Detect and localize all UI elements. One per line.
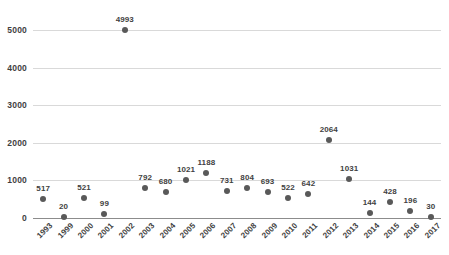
x-axis-tick-label: 2006 [199,221,218,240]
x-axis-tick-label: 2001 [97,221,116,240]
y-axis-tick-label: 2000 [7,138,27,148]
data-point-label: 4993 [116,15,134,24]
x-axis-tick-label: 2007 [219,221,238,240]
plot-area: 5172052199499379268010211188731804693522… [33,30,441,218]
x-axis-tick-label: 2017 [423,221,442,240]
x-axis-tick-label: 2000 [76,221,95,240]
gridline [33,180,441,181]
gridline [33,68,441,69]
data-point[interactable] [346,176,352,182]
x-axis-tick-label: 2011 [301,221,320,240]
y-axis-tick-label: 3000 [7,100,27,110]
x-axis-tick-label: 2014 [362,221,381,240]
x-axis-tick-label: 2012 [321,221,340,240]
gridline [33,143,441,144]
data-point[interactable] [183,177,189,183]
scatter-chart: 010002000300040005000 517205219949937926… [0,0,449,255]
data-point-label: 522 [281,183,295,192]
x-axis-tick-label: 2013 [341,221,360,240]
x-axis-tick-label: 1999 [56,221,75,240]
data-point-label: 517 [36,184,50,193]
gridline [33,30,441,31]
data-point[interactable] [367,210,373,216]
data-point[interactable] [326,137,332,143]
data-point-label: 99 [100,199,109,208]
data-point[interactable] [163,189,169,195]
x-axis-tick-label: 2016 [403,221,422,240]
x-axis-tick-label: 1993 [35,221,54,240]
data-point-label: 30 [426,202,435,211]
data-point[interactable] [81,195,87,201]
data-point[interactable] [387,199,393,205]
data-point-label: 804 [240,173,254,182]
x-axis-tick-label: 2008 [239,221,258,240]
x-axis-tick-label: 2015 [382,221,401,240]
data-point[interactable] [101,211,107,217]
x-axis-tick-label: 2010 [280,221,299,240]
y-axis: 010002000300040005000 [0,30,31,218]
data-point-label: 428 [383,187,397,196]
data-point-label: 521 [77,183,91,192]
gridline [33,105,441,106]
data-point[interactable] [122,27,128,33]
data-point-label: 642 [302,179,316,188]
x-axis-tick-label: 2002 [117,221,136,240]
x-axis-tick-label: 2004 [158,221,177,240]
data-point[interactable] [305,191,311,197]
y-axis-tick-label: 4000 [7,63,27,73]
data-point[interactable] [142,185,148,191]
data-point[interactable] [244,185,250,191]
data-point-label: 693 [261,177,275,186]
data-point[interactable] [265,189,271,195]
data-point[interactable] [203,170,209,176]
y-axis-tick-label: 0 [22,213,27,223]
x-axis-tick-label: 2003 [137,221,156,240]
y-axis-tick-label: 1000 [7,175,27,185]
data-point-label: 20 [59,202,68,211]
data-point[interactable] [285,195,291,201]
data-point-label: 1031 [340,164,358,173]
data-point[interactable] [407,208,413,214]
y-axis-tick-label: 5000 [7,25,27,35]
data-point-label: 1021 [177,165,195,174]
data-point[interactable] [224,188,230,194]
data-point-label: 144 [363,198,377,207]
data-point-label: 2064 [320,125,338,134]
data-point-label: 731 [220,176,234,185]
data-point-label: 680 [159,177,173,186]
data-point[interactable] [40,196,46,202]
data-point-label: 196 [404,196,418,205]
x-axis-tick-label: 2009 [260,221,279,240]
data-point-label: 792 [138,173,152,182]
data-point-label: 1188 [198,158,216,167]
x-axis: 1993199920002001200220032004200520062007… [33,219,441,255]
x-axis-tick-label: 2005 [178,221,197,240]
